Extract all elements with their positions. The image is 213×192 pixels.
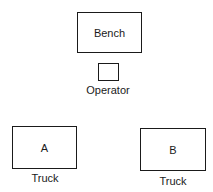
bench-label: Bench xyxy=(94,27,125,39)
truck-b-box: B xyxy=(140,128,206,171)
truck-b-label: B xyxy=(169,144,176,156)
truck-a-box: A xyxy=(12,126,77,169)
truck-a-label: A xyxy=(41,142,48,154)
operator-box xyxy=(98,63,119,81)
bench-box: Bench xyxy=(77,12,142,53)
operator-caption: Operator xyxy=(78,84,138,96)
truck-b-caption: Truck xyxy=(148,175,198,187)
truck-a-caption: Truck xyxy=(20,172,70,184)
